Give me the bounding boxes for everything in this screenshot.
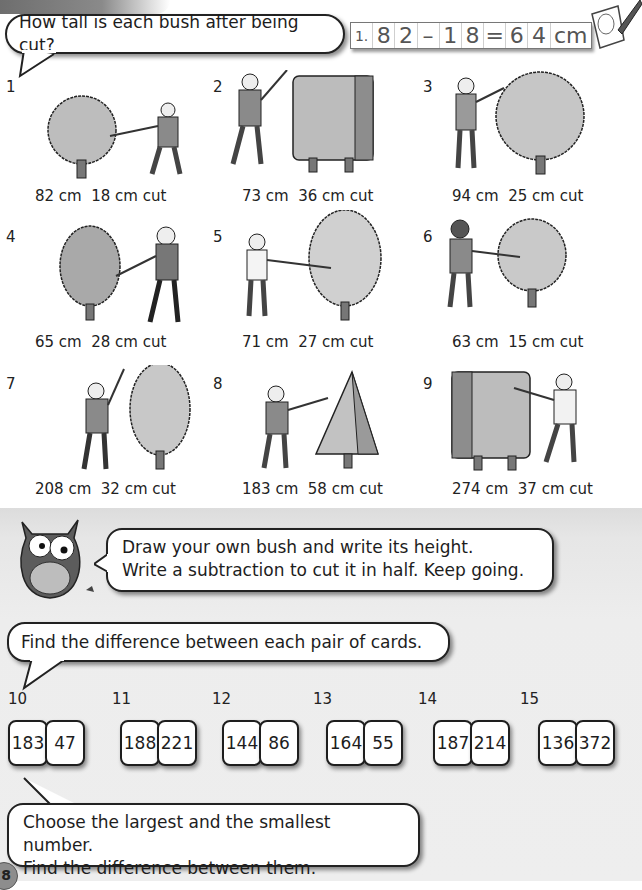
question-number: 8 bbox=[213, 375, 223, 393]
question-number: 13 bbox=[313, 690, 332, 708]
card-pair-11: 188 221 bbox=[120, 720, 197, 766]
bush-cut: 36 cm cut bbox=[298, 187, 373, 205]
bush-scene-2 bbox=[225, 70, 385, 185]
number-card: 188 bbox=[120, 720, 160, 766]
answer-cell: 8 bbox=[373, 23, 395, 48]
number-card: 221 bbox=[157, 720, 197, 766]
cards-instruction-bubble: Find the difference between each pair of… bbox=[7, 622, 450, 662]
question-bubble: How tall is each bush after being cut? bbox=[5, 14, 345, 54]
bubble-tail bbox=[94, 554, 110, 574]
bush-caption-6: 63 cm 15 cm cut bbox=[452, 333, 583, 351]
owl-mascot-icon bbox=[14, 512, 94, 602]
bush-caption-7: 208 cm 32 cm cut bbox=[35, 480, 176, 498]
answer-cell: 1. bbox=[351, 23, 373, 48]
bush-caption-4: 65 cm 28 cm cut bbox=[35, 333, 166, 351]
bush-caption-9: 274 cm 37 cm cut bbox=[452, 480, 593, 498]
answer-cell: 6 bbox=[506, 23, 528, 48]
question-number: 4 bbox=[6, 228, 16, 246]
bush-cut: 32 cm cut bbox=[101, 480, 176, 498]
bush-cut: 58 cm cut bbox=[308, 480, 383, 498]
bush-scene-1 bbox=[40, 90, 190, 185]
question-number: 11 bbox=[112, 690, 131, 708]
question-number: 14 bbox=[418, 690, 437, 708]
example-answer-strip: 1. 8 2 – 1 8 = 6 4 cm bbox=[350, 22, 592, 49]
bush-caption-2: 73 cm 36 cm cut bbox=[242, 187, 373, 205]
bush-cut: 15 cm cut bbox=[508, 333, 583, 351]
answer-cell: = bbox=[484, 23, 506, 48]
bush-cut: 37 cm cut bbox=[518, 480, 593, 498]
bubble-tail bbox=[18, 50, 68, 80]
bush-height: 183 cm bbox=[242, 480, 298, 498]
number-card: 372 bbox=[575, 720, 615, 766]
owl-prompt-bubble: Draw your own bush and write its height.… bbox=[106, 528, 554, 592]
number-card: 136 bbox=[538, 720, 578, 766]
number-card: 86 bbox=[259, 720, 299, 766]
number-card: 187 bbox=[433, 720, 473, 766]
owl-prompt-line-2: Write a subtraction to cut it in half. K… bbox=[122, 559, 538, 582]
bush-scene-3 bbox=[440, 70, 590, 185]
question-number: 15 bbox=[520, 690, 539, 708]
cards-instruction-text: Find the difference between each pair of… bbox=[21, 631, 422, 654]
card-pair-13: 164 55 bbox=[326, 720, 403, 766]
answer-cell: 8 bbox=[462, 23, 484, 48]
question-number: 6 bbox=[423, 228, 433, 246]
answer-cell: 1 bbox=[440, 23, 462, 48]
bush-scene-4 bbox=[50, 222, 190, 332]
bush-height: 208 cm bbox=[35, 480, 91, 498]
bush-caption-5: 71 cm 27 cm cut bbox=[242, 333, 373, 351]
question-number: 3 bbox=[423, 78, 433, 96]
bush-cut: 27 cm cut bbox=[298, 333, 373, 351]
bush-scene-5 bbox=[235, 210, 385, 328]
bush-scene-7 bbox=[80, 365, 200, 480]
number-card: 214 bbox=[470, 720, 510, 766]
challenge-line-1: Choose the largest and the smallest numb… bbox=[23, 811, 404, 857]
answer-cell: cm bbox=[551, 23, 591, 48]
question-number: 7 bbox=[6, 375, 16, 393]
question-number: 9 bbox=[423, 375, 433, 393]
card-pair-15: 136 372 bbox=[538, 720, 615, 766]
bush-height: 73 cm bbox=[242, 187, 289, 205]
bush-cut: 18 cm cut bbox=[91, 187, 166, 205]
question-number: 2 bbox=[213, 78, 223, 96]
question-number: 10 bbox=[8, 690, 27, 708]
bush-scene-6 bbox=[440, 215, 580, 325]
bush-height: 82 cm bbox=[35, 187, 82, 205]
question-number: 12 bbox=[212, 690, 231, 708]
pencil-note-icon bbox=[588, 0, 642, 50]
answer-cell: – bbox=[418, 23, 440, 48]
bush-scene-9 bbox=[448, 368, 583, 478]
number-card: 47 bbox=[45, 720, 85, 766]
answer-cell: 4 bbox=[528, 23, 550, 48]
bush-height: 65 cm bbox=[35, 333, 82, 351]
challenge-line-2: Find the difference between them. bbox=[23, 857, 404, 880]
bush-height: 63 cm bbox=[452, 333, 499, 351]
number-card: 55 bbox=[363, 720, 403, 766]
bush-height: 94 cm bbox=[452, 187, 499, 205]
bush-height: 71 cm bbox=[242, 333, 289, 351]
question-number: 5 bbox=[213, 228, 223, 246]
bubble-tail bbox=[20, 658, 70, 692]
bush-height: 274 cm bbox=[452, 480, 508, 498]
answer-cell: 2 bbox=[395, 23, 417, 48]
card-pair-14: 187 214 bbox=[433, 720, 510, 766]
bubble-tail bbox=[20, 776, 80, 806]
card-pair-12: 144 86 bbox=[222, 720, 299, 766]
bush-scene-8 bbox=[258, 368, 398, 480]
bush-caption-1: 82 cm 18 cm cut bbox=[35, 187, 166, 205]
bush-caption-8: 183 cm 58 cm cut bbox=[242, 480, 383, 498]
card-pair-10: 183 47 bbox=[8, 720, 85, 766]
number-card: 164 bbox=[326, 720, 366, 766]
challenge-bubble: Choose the largest and the smallest numb… bbox=[7, 803, 420, 867]
bush-caption-3: 94 cm 25 cm cut bbox=[452, 187, 583, 205]
number-card: 144 bbox=[222, 720, 262, 766]
number-card: 183 bbox=[8, 720, 48, 766]
bush-cut: 28 cm cut bbox=[91, 333, 166, 351]
question-number: 1 bbox=[6, 78, 16, 96]
owl-prompt-line-1: Draw your own bush and write its height. bbox=[122, 536, 538, 559]
bush-cut: 25 cm cut bbox=[508, 187, 583, 205]
